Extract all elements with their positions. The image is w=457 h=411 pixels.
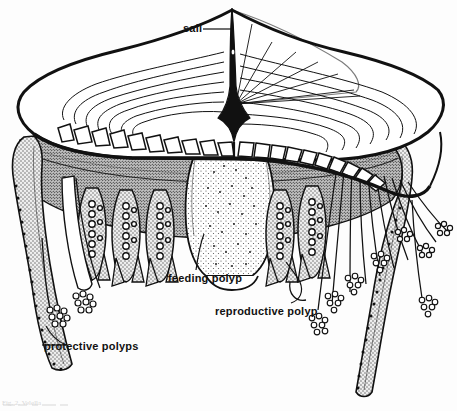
reproductive-polyp-cluster-left — [78, 188, 178, 286]
label-protective-polyps: protective polyps — [44, 340, 138, 352]
label-reproductive-polyp: reproductive polyp — [215, 305, 318, 317]
figure-caption: Fig. 2. Velella — [2, 399, 41, 407]
label-feeding-polyp: feeding polyp — [168, 272, 242, 284]
label-sail: sail — [183, 22, 202, 34]
illustration-canvas: sail feeding polyp reproductive polyp pr… — [0, 0, 457, 411]
